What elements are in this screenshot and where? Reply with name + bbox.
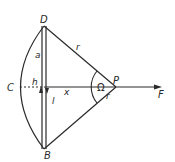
- label-F: F: [158, 89, 164, 100]
- line-DP: [44, 26, 116, 87]
- geometry-diagram: D B C P F r r a h l x Ω: [0, 0, 175, 162]
- label-C: C: [7, 82, 14, 93]
- label-h: h: [32, 77, 38, 87]
- label-B: B: [44, 150, 51, 161]
- label-omega: Ω: [97, 82, 105, 93]
- label-l: l: [52, 96, 55, 106]
- label-x: x: [63, 87, 70, 97]
- label-a: a: [35, 50, 41, 60]
- label-r-upper: r: [76, 42, 81, 52]
- label-D: D: [40, 14, 48, 25]
- label-P: P: [113, 75, 120, 86]
